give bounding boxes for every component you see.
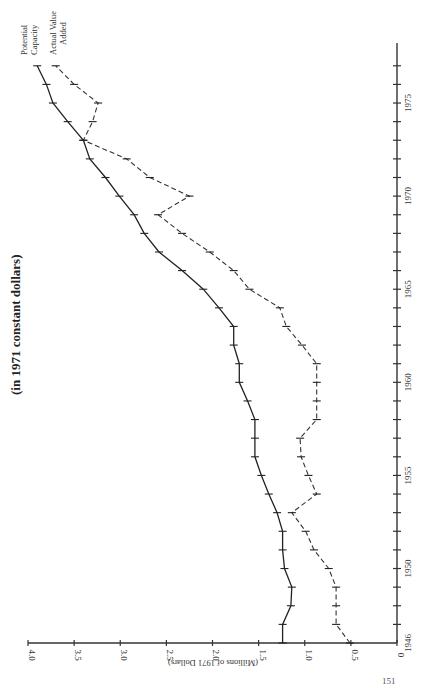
legend-potential-capacity: Potential Capacity: [19, 24, 39, 55]
svg-text:3.0: 3.0: [119, 649, 129, 661]
series-actual-value-added: [56, 66, 350, 643]
markers-potential-capacity: [33, 66, 296, 643]
year-axis-ticks: 1946195019551960196519701975: [393, 66, 413, 652]
svg-text:1946: 1946: [403, 634, 413, 653]
svg-text:3.5: 3.5: [73, 649, 83, 661]
rotated-line-chart: (in 1971 constant dollars) 1946195019551…: [0, 0, 424, 685]
markers-actual-value-added: [52, 66, 354, 643]
svg-text:1960: 1960: [403, 373, 413, 392]
svg-text:1950: 1950: [403, 559, 413, 578]
legend-actual-line1: Actual Value: [48, 11, 58, 55]
svg-text:1965: 1965: [403, 280, 413, 299]
legend-potential-line1: Potential: [19, 24, 29, 55]
svg-text:1975: 1975: [403, 94, 413, 113]
svg-text:4.0: 4.0: [27, 649, 37, 661]
svg-text:1955: 1955: [403, 466, 413, 485]
svg-text:0: 0: [396, 653, 406, 658]
svg-text:1.5: 1.5: [258, 649, 268, 661]
value-axis-title: (Millions of 1971 Dollars): [168, 658, 258, 668]
svg-text:1.0: 1.0: [304, 649, 314, 661]
svg-text:1970: 1970: [403, 187, 413, 206]
chart-title: (in 1971 constant dollars): [8, 255, 23, 395]
page-number: 151: [382, 676, 396, 685]
legend-actual-value-added: Actual Value Added: [48, 11, 68, 55]
svg-text:0.5: 0.5: [350, 649, 360, 661]
legend-actual-line2: Added: [58, 22, 68, 45]
legend-potential-line2: Capacity: [29, 24, 39, 55]
series-potential-capacity: [37, 66, 292, 643]
